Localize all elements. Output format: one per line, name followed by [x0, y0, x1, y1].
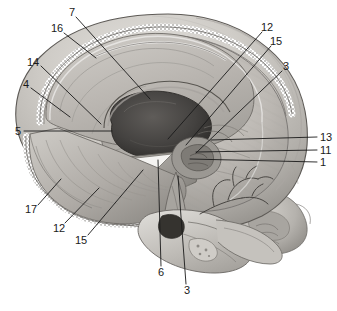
skull-brain-illustration: [0, 0, 337, 311]
label-12-right: 12: [261, 22, 273, 33]
label-15-left: 15: [75, 235, 87, 246]
label-15-right: 15: [270, 36, 282, 47]
label-5: 5: [15, 126, 21, 137]
label-17: 17: [25, 204, 37, 215]
label-12-left: 12: [53, 223, 65, 234]
label-4: 4: [23, 79, 29, 90]
label-14: 14: [27, 57, 39, 68]
anatomical-figure: 7161445171215631215313111: [0, 0, 337, 311]
label-6: 6: [158, 267, 164, 278]
label-7: 7: [69, 7, 75, 18]
label-1: 1: [320, 157, 326, 168]
label-3-bottom: 3: [184, 285, 190, 296]
label-13: 13: [320, 132, 332, 143]
label-16: 16: [51, 23, 63, 34]
label-3-right: 3: [283, 61, 289, 72]
label-11: 11: [320, 145, 331, 156]
